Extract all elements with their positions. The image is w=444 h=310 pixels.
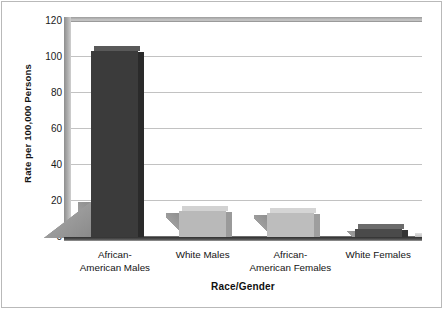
x-tick-label-line: American Males — [55, 262, 175, 275]
bar-3 — [267, 213, 314, 238]
x-tick-label-4: White Females — [318, 249, 438, 262]
bar-2 — [179, 211, 226, 238]
gridline-120 — [71, 20, 422, 21]
y-tick-label: 40 — [32, 160, 62, 170]
bar-top-3 — [270, 208, 316, 213]
x-tick-label-line: American Females — [230, 262, 350, 275]
bar-top-2 — [182, 206, 228, 211]
bar-top-1 — [94, 46, 140, 51]
bar-front-2 — [179, 211, 226, 238]
x-tick-label-line: White Females — [318, 249, 438, 262]
x-axis-title: Race/Gender — [64, 281, 422, 292]
bar-shadow-wedge-1 — [44, 202, 91, 238]
y-tick-label: 80 — [32, 88, 62, 98]
bar-side-2 — [226, 212, 232, 238]
plot-area — [64, 17, 422, 241]
bar-1 — [91, 51, 138, 238]
bar-side-1 — [138, 52, 144, 238]
panel-interior — [71, 21, 422, 237]
panel-floor — [64, 237, 422, 241]
bar-top-4 — [358, 224, 404, 229]
bar-chart-figure: Rate per 100,000 Persons 020406080100120… — [0, 0, 444, 310]
x-axis-tick-labels: African-American MalesWhite MalesAfrican… — [64, 249, 422, 285]
bar-side-3 — [314, 214, 320, 238]
y-tick-label: 120 — [32, 16, 62, 26]
y-tick-label: 100 — [32, 52, 62, 62]
bars-layer — [71, 22, 422, 238]
y-tick-label: 60 — [32, 124, 62, 134]
bar-front-3 — [267, 213, 314, 238]
bar-front-1 — [91, 51, 138, 238]
